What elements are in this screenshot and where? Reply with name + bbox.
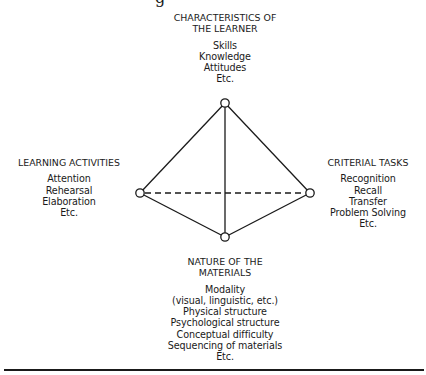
learner-characteristics-heading: CHARACTERISTICS OF THE LEARNER [163, 12, 287, 35]
list-item: Recognition [315, 173, 421, 184]
list-item: Problem Solving [315, 207, 421, 218]
vertex-left-circle [136, 189, 144, 197]
list-item: Rehearsal [10, 185, 128, 196]
list-item: Etc. [315, 218, 421, 229]
vertex-right-circle [306, 189, 314, 197]
list-item: Conceptual difficulty [138, 329, 312, 340]
criterial-tasks-label: CRITERIAL TASKS Recognition Recall Trans… [315, 157, 421, 230]
list-item: (visual, linguistic, etc.) [138, 295, 312, 306]
edge-left-bottom [140, 193, 225, 237]
list-item: Skills [163, 40, 287, 51]
edge-top-left [140, 103, 225, 193]
learner-characteristics-items: Skills Knowledge Attitudes Etc. [163, 40, 287, 85]
list-item: Transfer [315, 196, 421, 207]
edge-top-right [225, 103, 310, 193]
list-item: Etc. [10, 207, 128, 218]
list-item: Attention [10, 173, 128, 184]
vertex-top-circle [221, 99, 229, 107]
list-item: Knowledge [163, 51, 287, 62]
vertex-bottom-circle [221, 233, 229, 241]
list-item: Elaboration [10, 196, 128, 207]
list-item: Etc. [138, 351, 312, 362]
horizontal-rule-divider [4, 369, 424, 371]
list-item: Attitudes [163, 62, 287, 73]
list-item: Physical structure [138, 306, 312, 317]
learner-characteristics-label: CHARACTERISTICS OF THE LEARNER Skills Kn… [163, 12, 287, 85]
list-item: Sequencing of materials [138, 340, 312, 351]
edge-right-bottom [225, 193, 310, 237]
materials-nature-label: NATURE OF THE MATERIALS Modality (visual… [138, 256, 312, 363]
learning-activities-label: LEARNING ACTIVITIES Attention Rehearsal … [10, 157, 128, 218]
criterial-tasks-items: Recognition Recall Transfer Problem Solv… [315, 173, 421, 229]
learning-activities-items: Attention Rehearsal Elaboration Etc. [10, 173, 128, 218]
materials-nature-heading: NATURE OF THE MATERIALS [138, 256, 312, 279]
learning-activities-heading: LEARNING ACTIVITIES [10, 157, 128, 168]
list-item: Modality [138, 284, 312, 295]
materials-nature-items: Modality (visual, linguistic, etc.) Phys… [138, 284, 312, 363]
list-item: Etc. [163, 73, 287, 84]
list-item: Recall [315, 185, 421, 196]
list-item: Psychological structure [138, 317, 312, 328]
criterial-tasks-heading: CRITERIAL TASKS [315, 157, 421, 168]
